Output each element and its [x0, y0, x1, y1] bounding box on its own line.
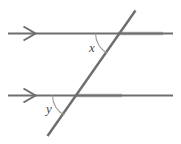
geometry-canvas: x y: [0, 0, 181, 144]
diagram-background: [0, 0, 181, 144]
geometry-diagram: x y: [0, 0, 181, 144]
angle-y-label: y: [44, 101, 52, 116]
angle-x-label: x: [88, 40, 95, 55]
